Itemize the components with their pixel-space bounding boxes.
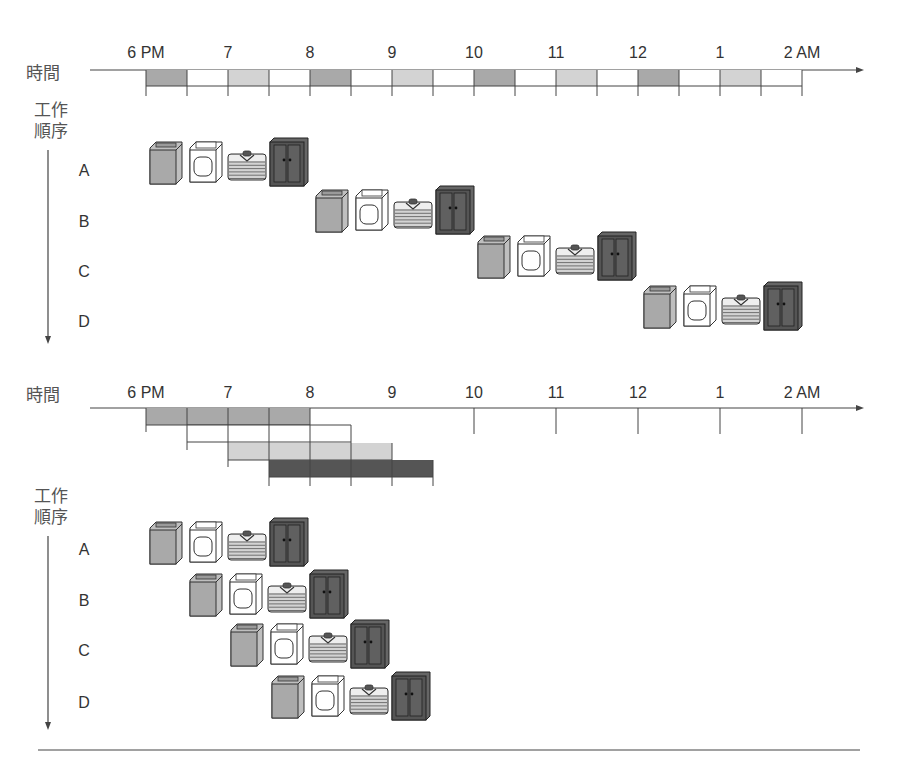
bottom-divider (0, 0, 901, 760)
